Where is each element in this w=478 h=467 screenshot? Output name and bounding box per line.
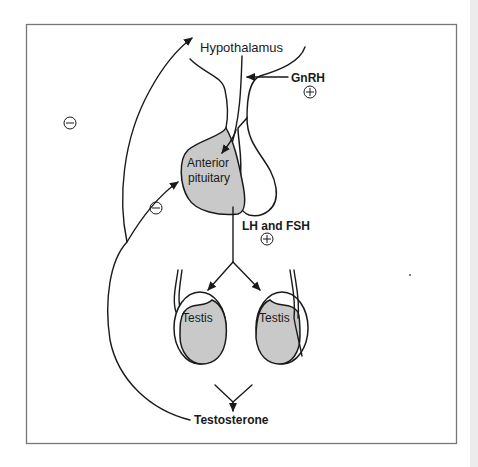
plus-sign-gnrh-icon <box>304 86 316 98</box>
minus-sign-pituitary-icon <box>150 202 162 214</box>
label-gnrh: GnRH <box>291 71 325 85</box>
hpg-axis-diagram: Hypothalamus GnRH Anterior pituitary LH … <box>0 0 478 467</box>
lh-fsh-branch-right <box>233 262 260 290</box>
stray-dot <box>409 274 411 276</box>
merge-left <box>215 385 233 402</box>
label-testosterone: Testosterone <box>194 413 269 427</box>
label-lh-fsh: LH and FSH <box>242 219 310 233</box>
label-hypothalamus: Hypothalamus <box>200 40 284 55</box>
lh-fsh-branch-left <box>208 262 233 290</box>
feedback-to-hypothalamus <box>123 38 192 242</box>
label-testis-left: Testis <box>182 311 213 325</box>
feedback-to-pituitary <box>108 182 190 420</box>
plus-sign-lh-fsh-icon <box>261 233 273 245</box>
hypothalamus-left-outline <box>190 59 227 128</box>
diagram-frame <box>27 25 457 444</box>
label-testis-right: Testis <box>259 311 290 325</box>
label-pituitary: pituitary <box>188 171 230 185</box>
label-anterior: Anterior <box>187 156 229 170</box>
minus-sign-hypothalamus-icon <box>64 117 76 129</box>
merge-right <box>233 385 252 402</box>
